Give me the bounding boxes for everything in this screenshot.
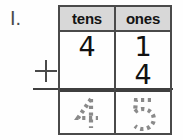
plus-operator-icon	[33, 58, 59, 84]
header-cell-tens: tens	[60, 7, 114, 32]
addend-stack-ones: 1 4	[116, 32, 170, 90]
addend2-digit-ones: 4	[134, 61, 151, 89]
sum-row	[60, 90, 170, 133]
sum-cell-tens[interactable]	[60, 90, 114, 133]
addend-stack-tens: 4	[60, 32, 114, 90]
traced-digit-five	[126, 95, 160, 131]
place-value-table: tens ones 4 1 4	[58, 5, 172, 135]
addends-row: 4 1 4	[60, 32, 170, 90]
worksheet-problem: I. tens ones 4 1	[0, 0, 183, 140]
sum-cell-ones[interactable]	[114, 90, 170, 133]
table-header-row: tens ones	[60, 7, 170, 32]
header-label-tens: tens	[72, 11, 102, 26]
addend-cell-ones[interactable]: 1 4	[114, 32, 170, 90]
traced-digit-four	[70, 95, 104, 131]
addend1-digit-ones: 1	[134, 33, 151, 61]
addend-cell-tens[interactable]: 4	[60, 32, 114, 90]
problem-number: I.	[10, 8, 21, 28]
header-cell-ones: ones	[114, 7, 170, 32]
plus-vertical-bar	[45, 60, 47, 82]
addend1-digit-tens: 4	[78, 33, 95, 61]
header-label-ones: ones	[126, 11, 160, 26]
